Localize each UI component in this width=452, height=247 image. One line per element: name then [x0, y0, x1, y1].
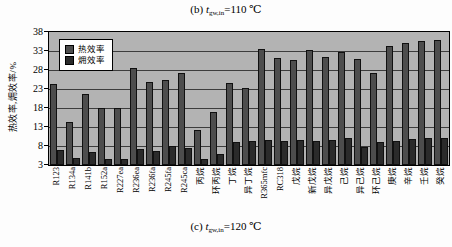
figure-caption-prefix: (c) — [190, 220, 205, 232]
y-tick-label-3: 3 — [0, 159, 43, 170]
bar-thermal-R123 — [50, 84, 57, 165]
bar-thermal-戊烷 — [290, 60, 297, 165]
bar-exergy-庚烷 — [393, 141, 400, 165]
y-tick-label-28: 28 — [0, 64, 43, 75]
bar-thermal-R141b — [82, 94, 89, 165]
x-tick-label-环己烷: 环己烷 — [371, 167, 381, 194]
bar-exergy-R245ca — [185, 148, 192, 165]
bar-thermal-R365mfc — [258, 49, 265, 165]
bar-exergy-R236fa — [153, 151, 160, 165]
bar-exergy-丁烷 — [233, 142, 240, 165]
bar-exergy-异戊烷 — [329, 140, 336, 165]
bar-exergy-壬烷 — [425, 138, 432, 165]
x-tick-label-新戊烷: 新戊烷 — [307, 167, 317, 194]
bar-thermal-R236ea — [130, 68, 137, 165]
legend-entry-thermal: 热效率 — [65, 45, 105, 54]
x-tick-label-R152a: R152a — [99, 167, 109, 189]
x-tick-label-R227ea: R227ea — [115, 167, 125, 193]
bar-thermal-壬烷 — [418, 41, 425, 165]
bar-thermal-R227ea — [114, 108, 121, 165]
exergy-efficiency-swatch-icon — [65, 56, 74, 65]
legend-label-thermal: 热效率 — [78, 45, 105, 54]
bar-exergy-R236ea — [137, 149, 144, 165]
y-tick-label-8: 8 — [0, 140, 43, 151]
bar-thermal-R245fa — [162, 80, 169, 165]
bar-exergy-辛烷 — [409, 139, 416, 165]
y-tick-label-38: 38 — [0, 26, 43, 37]
bar-thermal-新戊烷 — [306, 50, 313, 165]
legend: 热效率 㶲效率 — [59, 39, 113, 71]
bar-exergy-R123 — [57, 150, 64, 165]
bar-exergy-R227ea — [121, 159, 128, 165]
bar-thermal-RC318 — [274, 58, 281, 165]
bar-exergy-R141b — [89, 152, 96, 165]
x-tick-label-丙烷: 丙烷 — [195, 167, 205, 185]
x-tick-label-癸烷: 癸烷 — [435, 167, 445, 185]
y-tick-label-33: 33 — [0, 45, 43, 56]
bar-thermal-癸烷 — [434, 40, 441, 165]
figure-caption-subscript: gw,in — [208, 226, 223, 234]
x-tick-label-R123: R123 — [51, 167, 61, 185]
bar-thermal-环丙烷 — [210, 112, 217, 165]
bar-exergy-异己烷 — [361, 147, 368, 165]
bar-exergy-己烷 — [345, 138, 352, 165]
bar-thermal-异戊烷 — [322, 57, 329, 165]
bar-thermal-R245ca — [178, 73, 185, 165]
x-tick-label-丁烷: 丁烷 — [227, 167, 237, 185]
x-tick-label-R134a: R134a — [67, 167, 77, 189]
bar-exergy-异丁烷 — [249, 141, 256, 165]
figure: (b) tgw,in=110 ℃ 热效率,㶲效率/% 3833282318138… — [0, 0, 452, 247]
x-tick-label-环丙烷: 环丙烷 — [211, 167, 221, 194]
x-tick-label-R365mfc: R365mfc — [259, 167, 269, 199]
x-tick-label-庚烷: 庚烷 — [387, 167, 397, 185]
bar-exergy-环己烷 — [377, 142, 384, 165]
bar-exergy-戊烷 — [297, 140, 304, 165]
x-tick-label-壬烷: 壬烷 — [419, 167, 429, 185]
x-tick-label-R245fa: R245fa — [163, 167, 173, 192]
bar-exergy-新戊烷 — [313, 141, 320, 165]
bar-exergy-环丙烷 — [217, 154, 224, 165]
bar-thermal-异己烷 — [354, 59, 361, 165]
x-tick-label-RC318: RC318 — [275, 167, 285, 191]
x-tick-label-R236ea: R236ea — [131, 167, 141, 193]
x-tick-label-异己烷: 异己烷 — [355, 167, 365, 194]
bar-thermal-环己烷 — [370, 73, 377, 165]
y-tick-label-23: 23 — [0, 83, 43, 94]
legend-entry-exergy: 㶲效率 — [65, 56, 105, 65]
bar-thermal-丁烷 — [226, 83, 233, 165]
bar-thermal-R134a — [66, 122, 73, 165]
bar-thermal-庚烷 — [386, 46, 393, 165]
x-tick-label-R245ca: R245ca — [179, 167, 189, 193]
x-tick-label-己烷: 己烷 — [339, 167, 349, 185]
bar-exergy-癸烷 — [441, 138, 448, 165]
x-tick-label-R236fa: R236fa — [147, 167, 157, 192]
y-tick-label-13: 13 — [0, 121, 43, 132]
bar-thermal-己烷 — [338, 52, 345, 165]
chart-title-prefix: (b) — [190, 3, 206, 15]
legend-label-exergy: 㶲效率 — [78, 56, 105, 65]
y-tick-label-18: 18 — [0, 102, 43, 113]
bar-exergy-R152a — [105, 159, 112, 165]
bar-exergy-R134a — [73, 158, 80, 165]
bar-thermal-R236fa — [146, 82, 153, 165]
figure-caption-suffix: =120 ℃ — [224, 220, 262, 232]
thermal-efficiency-swatch-icon — [65, 45, 74, 54]
chart-title-subscript: gw,in — [209, 9, 224, 17]
x-tick-label-辛烷: 辛烷 — [403, 167, 413, 185]
plot-area: 热效率 㶲效率 — [48, 31, 450, 166]
bar-thermal-丙烷 — [194, 130, 201, 165]
bar-exergy-R365mfc — [265, 140, 272, 165]
bar-thermal-R152a — [98, 108, 105, 165]
x-tick-label-戊烷: 戊烷 — [291, 167, 301, 185]
chart-title: (b) tgw,in=110 ℃ — [0, 3, 452, 17]
bar-thermal-异丁烷 — [242, 88, 249, 165]
bar-thermal-辛烷 — [402, 43, 409, 165]
chart-title-suffix: =110 ℃ — [224, 3, 261, 15]
bar-exergy-RC318 — [281, 141, 288, 165]
bar-exergy-R245fa — [169, 146, 176, 165]
x-tick-label-异戊烷: 异戊烷 — [323, 167, 333, 194]
x-tick-label-异丁烷: 异丁烷 — [243, 167, 253, 194]
bar-exergy-丙烷 — [201, 159, 208, 165]
x-tick-label-R141b: R141b — [83, 167, 93, 190]
figure-caption: (c) tgw,in=120 ℃ — [0, 220, 452, 234]
